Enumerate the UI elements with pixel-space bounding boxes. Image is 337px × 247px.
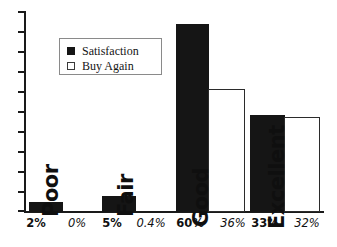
bar-buy-again-good <box>208 89 245 212</box>
filled-square-icon <box>67 47 75 55</box>
bar-chart: Poor Fair Good Excellent Satisfaction Bu… <box>0 0 337 247</box>
category-label-fair: Fair <box>116 174 137 217</box>
bar-buy-again-excellent <box>284 117 320 212</box>
value-label-satisfaction-excellent: 33% <box>241 218 289 230</box>
category-label-excellent: Excellent <box>267 125 288 229</box>
chart-legend: Satisfaction Buy Again <box>59 38 162 75</box>
category-label-poor: Poor <box>41 164 62 217</box>
legend-label-satisfaction: Satisfaction <box>82 45 139 57</box>
legend-item-buy-again: Buy Again <box>67 58 161 73</box>
value-label-buy-again-excellent: 32% <box>283 218 331 230</box>
value-label-satisfaction-good: 60% <box>165 218 215 230</box>
value-label-satisfaction-poor: 2% <box>14 218 58 230</box>
legend-label-buy-again: Buy Again <box>82 60 134 72</box>
open-square-icon <box>67 62 75 70</box>
legend-item-satisfaction: Satisfaction <box>67 43 161 58</box>
